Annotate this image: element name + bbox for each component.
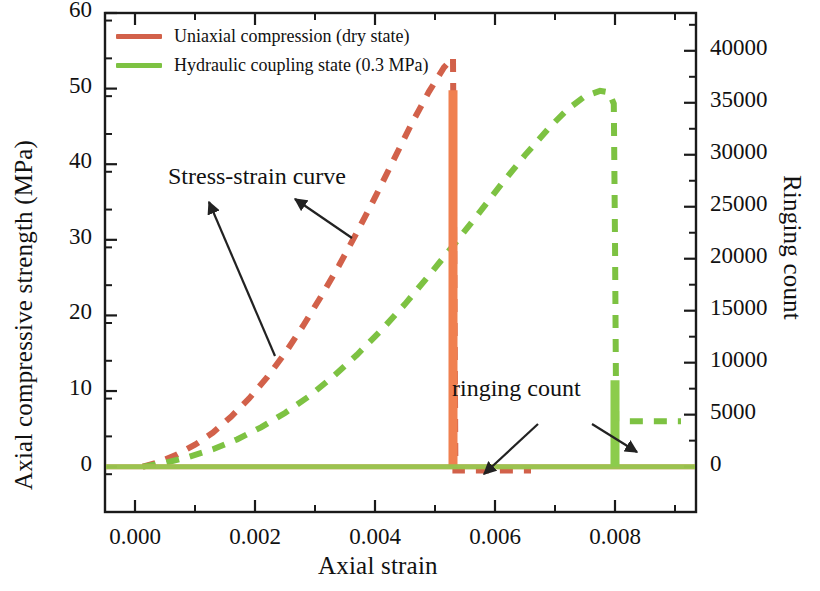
annotation-ringing-count: ringing count bbox=[452, 375, 581, 402]
y-left-tick-5: 10 bbox=[30, 375, 92, 401]
y-left-tick-2: 40 bbox=[30, 148, 92, 174]
y-right-tick-0: 40000 bbox=[710, 35, 768, 61]
stress-strain-curve-0 bbox=[143, 58, 531, 471]
data-series bbox=[106, 58, 695, 471]
y-left-tick-3: 30 bbox=[30, 224, 92, 250]
legend-swatch-0 bbox=[116, 34, 162, 39]
y-right-tick-1: 35000 bbox=[710, 87, 768, 113]
annotation-stress-strain-curve: Stress-strain curve bbox=[168, 163, 346, 190]
chart-canvas bbox=[0, 0, 820, 591]
y-left-tick-0: 60 bbox=[30, 0, 92, 23]
x-tick-0: 0.000 bbox=[90, 524, 180, 550]
y-left-tick-4: 20 bbox=[30, 299, 92, 325]
y-axis-right-title: Ringing count bbox=[778, 175, 806, 320]
chart-figure: Axial compressive strength (MPa) Ringing… bbox=[0, 0, 820, 591]
y-right-tick-3: 25000 bbox=[710, 191, 768, 217]
legend-label-0: Uniaxial compression (dry state) bbox=[174, 26, 409, 47]
legend-item-0: Uniaxial compression (dry state) bbox=[116, 26, 428, 47]
y-right-tick-6: 10000 bbox=[710, 347, 768, 373]
arrow-stress-strain-to-green bbox=[209, 202, 275, 356]
x-tick-2: 0.004 bbox=[330, 524, 420, 550]
chart-legend: Uniaxial compression (dry state)Hydrauli… bbox=[116, 26, 428, 76]
y-right-tick-7: 5000 bbox=[710, 399, 756, 425]
axes-frame bbox=[105, 13, 696, 512]
legend-swatch-1 bbox=[116, 63, 162, 68]
y-right-tick-5: 15000 bbox=[710, 295, 768, 321]
y-left-tick-6: 0 bbox=[30, 451, 92, 477]
x-axis-title: Axial strain bbox=[318, 552, 438, 580]
annotation-arrows bbox=[209, 199, 637, 474]
x-tick-4: 0.008 bbox=[570, 524, 660, 550]
legend-label-1: Hydraulic coupling state (0.3 MPa) bbox=[174, 55, 428, 76]
y-right-tick-4: 20000 bbox=[710, 243, 768, 269]
x-tick-3: 0.006 bbox=[450, 524, 540, 550]
stress-strain-curve-1 bbox=[143, 91, 681, 467]
y-right-tick-2: 30000 bbox=[710, 139, 768, 165]
legend-item-1: Hydraulic coupling state (0.3 MPa) bbox=[116, 55, 428, 76]
y-right-tick-8: 0 bbox=[710, 451, 722, 477]
arrow-stress-strain-to-orange bbox=[295, 199, 352, 238]
y-left-tick-1: 50 bbox=[30, 73, 92, 99]
x-tick-1: 0.002 bbox=[210, 524, 300, 550]
